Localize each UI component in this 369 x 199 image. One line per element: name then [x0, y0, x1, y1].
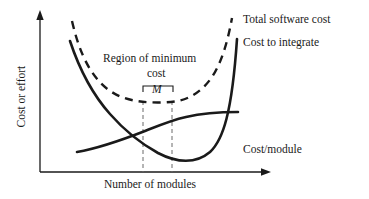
region-minimum-cost-line1: Region of minimum — [103, 52, 196, 65]
x-axis-label: Number of modules — [104, 178, 196, 191]
curve-label-cost-per-module: Cost/module — [243, 143, 302, 156]
region-minimum-cost-line2: cost — [147, 67, 166, 80]
minimum-region-guides — [143, 101, 172, 172]
curve-label-cost-to-integrate: Cost to integrate — [243, 36, 319, 49]
cost-vs-modules-figure: Total software cost Cost to integrate Co… — [0, 0, 369, 199]
module-count-marker-label: M — [152, 83, 162, 96]
y-axis — [36, 10, 43, 172]
y-axis-label: Cost or effort — [15, 57, 28, 137]
curve-label-total-software-cost: Total software cost — [243, 13, 330, 26]
chart-canvas — [0, 0, 369, 199]
x-axis — [40, 168, 271, 175]
